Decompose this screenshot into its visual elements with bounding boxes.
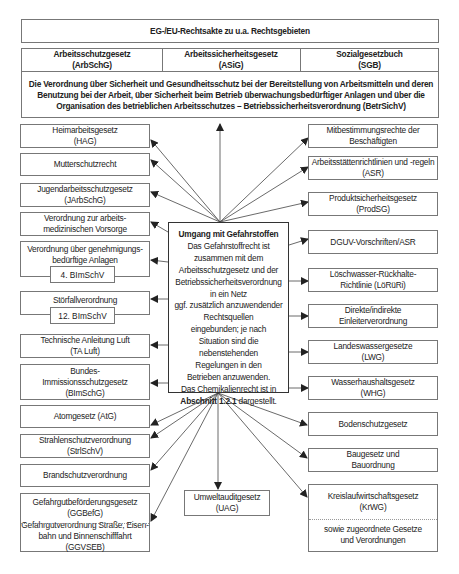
law-name: Kreislaufwirtschaftsgesetz xyxy=(328,491,419,502)
law-name: Gefahrgutbeförderungsgesetz xyxy=(33,497,138,508)
law-abbr: (GGBefG) xyxy=(33,508,138,519)
central-text: Das Gefahrstoffrecht ist xyxy=(169,241,288,253)
law-name: Brandschutzverordnung xyxy=(43,470,127,481)
central-text: Situation sind die xyxy=(169,336,288,348)
arbschg-cell: Arbeitsschutzgesetz (ArbSchG) xyxy=(22,49,162,71)
law-name-ggvseb-cont: bahn und Binnenschifffahrt (GGVSEB) xyxy=(21,531,149,553)
central-title: Umgang mit Gefahrstoffen xyxy=(169,229,288,241)
law-name: Bodenschutzgesetz xyxy=(338,419,407,430)
central-text: eingebunden; je nach xyxy=(169,324,288,336)
central-text: Regelungen in den xyxy=(169,360,288,372)
central-hazardous-substances-box: Umgang mit Gefahrstoffen Das Gefahrstoff… xyxy=(168,222,289,393)
law-abbr: bedürftige Anlagen xyxy=(52,255,118,266)
law-box-baugesetz: Baugesetz undBauordnung xyxy=(308,448,438,472)
central-text: Das Chemikalienrecht ist in xyxy=(169,384,288,396)
law-box-krwg: Kreislaufwirtschaftsgesetz(KrWG) sowie z… xyxy=(308,484,438,552)
law-name: Baugesetz und xyxy=(347,449,400,460)
law-name: Jugendarbeitsschutzgesetz xyxy=(37,184,133,195)
law-box-uag: Umweltauditgesetz(UAG) xyxy=(184,490,270,516)
law-name-cont: Beschäftigten xyxy=(349,136,397,147)
law-name: Löschwasser-Rückhalte- xyxy=(330,269,416,280)
law-name-cont: Einleiterverordnung xyxy=(339,316,407,327)
central-text: Rechtsquellen xyxy=(169,312,288,324)
law-name: Atomgesetz (AtG) xyxy=(54,411,117,422)
law-name: Bundes- xyxy=(70,366,100,377)
law-abbr: (JArbSchG) xyxy=(64,195,105,206)
betrsichv-text: Die Verordnung über Sicherheit und Gesun… xyxy=(26,72,436,118)
law-box-mitbestimmung: Mitbestimmungsrechte derBeschäftigten xyxy=(308,124,438,148)
law-abbr: (LWG) xyxy=(362,352,385,363)
asig-abbr: (ASiG) xyxy=(219,60,244,71)
law-box-ta-luft: Technische Anleitung Luft(TA Luft) xyxy=(20,334,150,358)
central-text: nebenstehenden xyxy=(169,348,288,360)
law-box-lwg: Landeswassergesetze(LWG) xyxy=(308,340,438,364)
law-box-einleiter: Direkte/indirekteEinleiterverordnung xyxy=(308,304,438,328)
sgb-cell: Sozialgesetzbuch (SGB) xyxy=(300,49,439,71)
law-box-brandschutz: Brandschutzverordnung xyxy=(20,464,150,487)
law-name-cont: Bauordnung xyxy=(351,460,394,471)
law-name: DGUV-Vorschriften/ASR xyxy=(330,237,415,248)
law-name: Landeswassergesetze xyxy=(334,341,413,352)
law-name: Strahlenschutzverordnung xyxy=(39,435,131,446)
law-name: Technische Anleitung Luft xyxy=(40,335,129,346)
law-name: Wasserhaushaltsgesetz xyxy=(331,377,415,388)
law-abbr: (UAG) xyxy=(216,503,239,514)
law-name: Mitbestimmungsrechte der xyxy=(327,125,420,136)
law-name-related-cont: und Verordnungen xyxy=(324,535,422,546)
law-box-asr: Arbeitsstättenrichtlinien und -regeln(AS… xyxy=(308,156,438,180)
law-name: Produktsicherheitsgesetz xyxy=(329,193,417,204)
law-name: Heimarbeitsgesetz xyxy=(52,125,117,136)
central-text: Betriebssicherheitsverordnung xyxy=(169,277,288,289)
law-name-related: sowie zugeordnete Gesetze xyxy=(324,524,422,535)
law-box-mutterschutz: Mutterschutzrecht xyxy=(20,153,150,176)
law-name: Umweltauditgesetz xyxy=(194,492,261,503)
eu-law-label: EG-/EU-Rechtsakte zu u.a. Rechtsgebieten xyxy=(22,20,438,42)
law-name: Arbeitsstättenrichtlinien und -regeln xyxy=(312,157,435,168)
law-box-loerueri: Löschwasser-Rückhalte-Richtlinie (LöRüRi… xyxy=(308,268,438,292)
law-abbr: (KrWG) xyxy=(328,502,419,513)
central-text: ggf. zusätzlich anzuwendender xyxy=(169,300,288,312)
law-box-hag: Heimarbeitsgesetz(HAG) xyxy=(20,124,150,148)
law-name: Direkte/indirekte xyxy=(345,305,402,316)
law-name-ggvseb: Gefahrgutverordnung Straße, Eisen- xyxy=(21,520,149,531)
sgb-name: Sozialgesetzbuch xyxy=(336,49,402,60)
central-text: in ein Netz xyxy=(169,289,288,301)
sub-box-4-bimschv: 4. BImSchV xyxy=(50,266,115,283)
central-text: dargestellt. xyxy=(236,396,276,406)
law-box-jarbschg: Jugendarbeitsschutzgesetz(JArbSchG) xyxy=(20,183,150,207)
arbschg-abbr: (ArbSchG) xyxy=(72,60,112,71)
asig-cell: Arbeitssicherheitsgesetz (ASiG) xyxy=(162,49,300,71)
law-abbr: (ProdSG) xyxy=(356,204,389,215)
central-text: zusammen mit dem xyxy=(169,253,288,265)
law-name: Mutterschutzrecht xyxy=(54,159,117,170)
law-box-bodenschutz: Bodenschutzgesetz xyxy=(308,412,438,436)
law-name: Verordnung über genehmigungs- xyxy=(27,244,143,255)
law-box-atg: Atomgesetz (AtG) xyxy=(20,405,150,428)
sub-box-12-bimschv: 12. BImSchV xyxy=(50,307,115,324)
arbschg-name: Arbeitsschutzgesetz xyxy=(54,49,131,60)
law-abbr: (StrlSchV) xyxy=(67,446,103,457)
law-abbr: (ASR) xyxy=(362,168,384,179)
sgb-abbr: (SGB) xyxy=(358,60,381,71)
law-box-whg: Wasserhaushaltsgesetz(WHG) xyxy=(308,376,438,400)
law-abbr: (WHG) xyxy=(361,388,386,399)
law-abbr: (HAG) xyxy=(74,136,97,147)
law-abbr: (BImSchG) xyxy=(65,388,104,399)
law-name: Störfallverordnung xyxy=(53,295,117,306)
law-box-dguv: DGUV-Vorschriften/ASR xyxy=(308,230,438,254)
law-name: Verordnung zur arbeits- xyxy=(44,213,126,224)
law-box-bimschg: Bundes-Immissionsschutzgesetz(BImSchG) xyxy=(20,364,150,400)
central-text: Arbeitsschutzgesetz und der xyxy=(169,265,288,277)
law-box-arbmedvv: Verordnung zur arbeits-medizinischen Vor… xyxy=(20,212,150,236)
eu-law-box: EG-/EU-Rechtsakte zu u.a. Rechtsgebieten xyxy=(21,19,439,43)
section-reference-link: Abschnitt 1.2.1 xyxy=(180,396,236,406)
law-name-cont: Immissionsschutzgesetz xyxy=(42,377,128,388)
law-box-prodsg: Produktsicherheitsgesetz(ProdSG) xyxy=(308,192,438,216)
law-abbr: Richtlinie (LöRüRi) xyxy=(340,280,405,291)
law-box-ggbefg: Gefahrgutbeförderungsgesetz(GGBefG) Gefa… xyxy=(20,493,150,552)
law-box-strlschv: Strahlenschutzverordnung(StrlSchV) xyxy=(20,434,150,458)
central-text: Betrieben anzuwenden. xyxy=(169,372,288,384)
asig-name: Arbeitssicherheitsgesetz xyxy=(184,49,277,60)
law-abbr: medizinischen Vorsorge xyxy=(43,224,127,235)
core-laws-table: Arbeitsschutzgesetz (ArbSchG) Arbeitssic… xyxy=(21,48,439,118)
